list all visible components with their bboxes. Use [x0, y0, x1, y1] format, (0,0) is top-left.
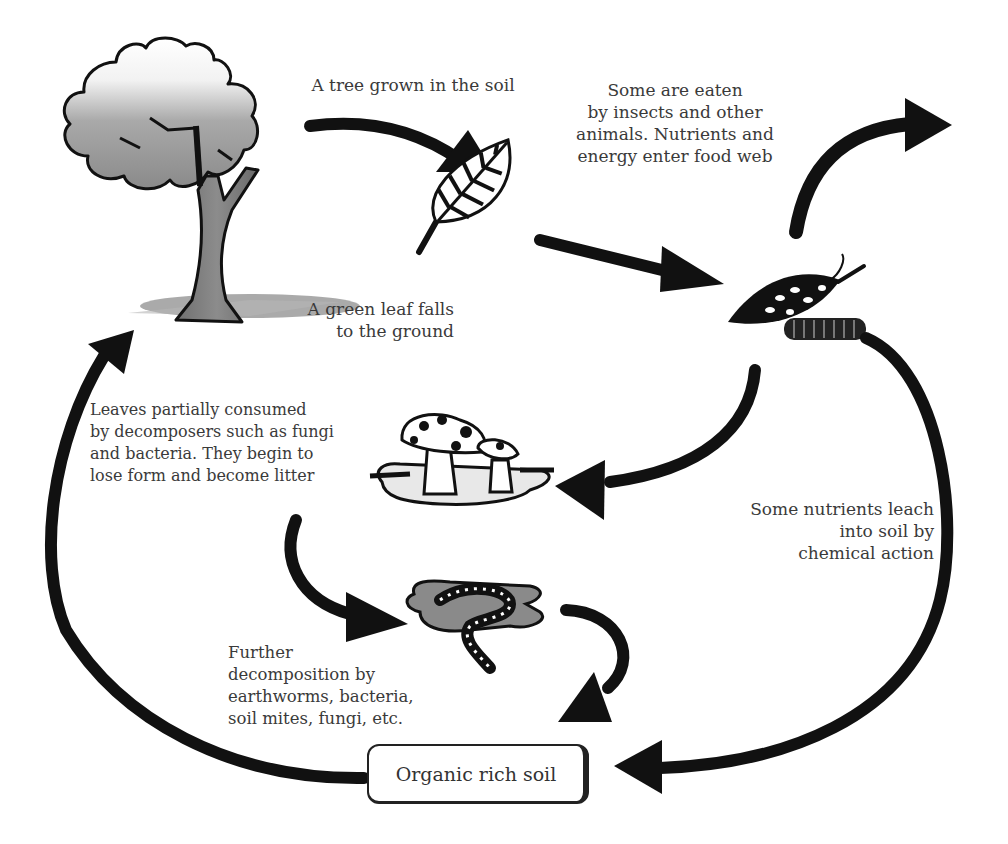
caterpillar-leaf-icon — [728, 254, 866, 340]
label-tree-grown: A tree grown in the soil — [300, 74, 526, 96]
arrow-fungi-to-worm — [291, 520, 408, 642]
label-leaf-falls: A green leaf falls to the ground — [284, 298, 454, 342]
mushroom-icon — [370, 415, 554, 505]
soil-box: Organic rich soil — [367, 744, 589, 804]
label-leach: Some nutrients leach into soil by chemic… — [702, 498, 934, 564]
label-fungi-decomposers: Leaves partially consumed by decomposers… — [90, 399, 390, 487]
label-earthworm-decomposition: Further decomposition by earthworms, bac… — [228, 642, 458, 730]
label-eaten-food-web: Some are eaten by insects and other anim… — [555, 79, 795, 167]
arrow-leaf-to-caterpillar — [540, 240, 724, 292]
arrow-leach-to-soil — [614, 338, 947, 794]
arrow-to-food-web — [796, 98, 952, 232]
arrow-worm-to-soil — [558, 610, 623, 722]
soil-box-label: Organic rich soil — [396, 763, 557, 785]
